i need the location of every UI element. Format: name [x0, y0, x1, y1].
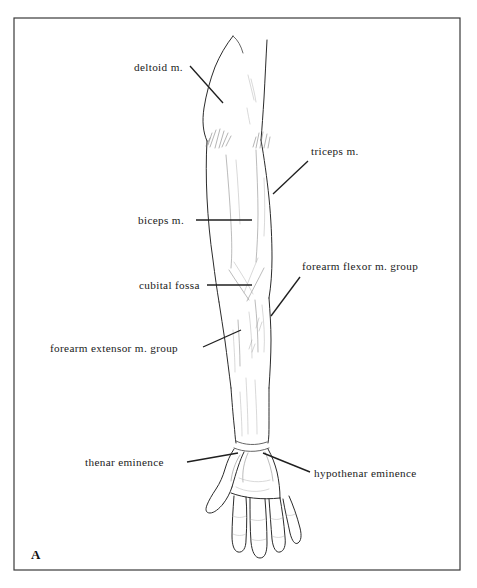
label-forearm-flexor-group: forearm flexor m. group	[302, 260, 418, 272]
label-thenar-eminence: thenar eminence	[85, 456, 164, 468]
label-deltoid-muscle: deltoid m.	[134, 61, 183, 73]
label-triceps-muscle: triceps m.	[311, 145, 359, 157]
label-hypothenar-eminence: hypothenar eminence	[314, 467, 417, 479]
label-biceps-muscle: biceps m.	[138, 214, 184, 226]
anatomy-illustration: deltoid m. triceps m. biceps m. forearm …	[0, 0, 477, 588]
label-forearm-extensor-group: forearm extensor m. group	[50, 342, 178, 354]
panel-letter-a: A	[31, 547, 41, 562]
label-cubital-fossa: cubital fossa	[139, 279, 200, 291]
page-background	[0, 0, 477, 588]
anatomy-figure-panel: deltoid m. triceps m. biceps m. forearm …	[0, 0, 477, 588]
